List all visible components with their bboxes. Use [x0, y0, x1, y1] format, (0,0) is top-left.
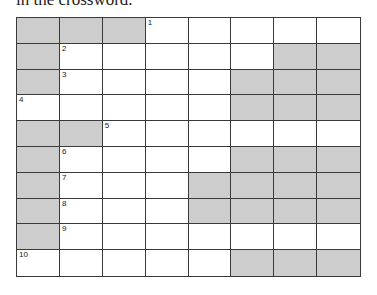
clue-number: 2 [62, 45, 66, 53]
blocked-cell [189, 173, 232, 199]
letter-cell[interactable] [103, 224, 146, 250]
clue-number: 9 [62, 225, 66, 233]
blocked-cell [231, 70, 274, 96]
blocked-cell [17, 224, 60, 250]
letter-cell[interactable] [189, 250, 232, 276]
letter-cell[interactable] [146, 199, 189, 225]
letter-cell[interactable] [146, 173, 189, 199]
letter-cell[interactable] [231, 224, 274, 250]
letter-cell[interactable]: 2 [60, 44, 103, 70]
letter-cell[interactable]: 5 [103, 121, 146, 147]
letter-cell[interactable] [274, 224, 317, 250]
clue-number: 5 [105, 122, 109, 130]
clue-number: 10 [19, 251, 28, 259]
blocked-cell [17, 199, 60, 225]
letter-cell[interactable]: 6 [60, 147, 103, 173]
instruction-text: in the crossword. [16, 0, 133, 8]
letter-cell[interactable]: 3 [60, 70, 103, 96]
blocked-cell [317, 70, 360, 96]
letter-cell[interactable] [189, 147, 232, 173]
letter-cell[interactable] [103, 44, 146, 70]
clue-number: 6 [62, 148, 66, 156]
blocked-cell [17, 121, 60, 147]
letter-cell[interactable] [103, 250, 146, 276]
letter-cell[interactable] [146, 70, 189, 96]
letter-cell[interactable] [189, 121, 232, 147]
letter-cell[interactable] [231, 44, 274, 70]
letter-cell[interactable] [189, 44, 232, 70]
letter-cell[interactable] [60, 95, 103, 121]
clue-number: 4 [19, 96, 23, 104]
clue-number: 8 [62, 200, 66, 208]
blocked-cell [274, 147, 317, 173]
letter-cell[interactable]: 1 [146, 18, 189, 44]
letter-cell[interactable] [146, 224, 189, 250]
letter-cell[interactable] [317, 121, 360, 147]
letter-cell[interactable] [146, 121, 189, 147]
blocked-cell [17, 70, 60, 96]
blocked-cell [274, 70, 317, 96]
letter-cell[interactable] [189, 95, 232, 121]
letter-cell[interactable] [317, 18, 360, 44]
letter-cell[interactable] [60, 250, 103, 276]
blocked-cell [17, 173, 60, 199]
clue-number: 7 [62, 174, 66, 182]
letter-cell[interactable]: 9 [60, 224, 103, 250]
clue-number: 3 [62, 71, 66, 79]
blocked-cell [274, 173, 317, 199]
blocked-cell [17, 44, 60, 70]
blocked-cell [17, 18, 60, 44]
blocked-cell [60, 18, 103, 44]
letter-cell[interactable] [189, 70, 232, 96]
letter-cell[interactable] [231, 121, 274, 147]
letter-cell[interactable] [189, 18, 232, 44]
letter-cell[interactable] [103, 173, 146, 199]
blocked-cell [317, 147, 360, 173]
letter-cell[interactable] [103, 199, 146, 225]
blocked-cell [274, 199, 317, 225]
clue-number: 1 [148, 19, 152, 27]
blocked-cell [274, 44, 317, 70]
blocked-cell [231, 173, 274, 199]
blocked-cell [317, 44, 360, 70]
blocked-cell [317, 199, 360, 225]
blocked-cell [231, 95, 274, 121]
letter-cell[interactable]: 10 [17, 250, 60, 276]
letter-cell[interactable] [274, 18, 317, 44]
blocked-cell [317, 95, 360, 121]
letter-cell[interactable]: 7 [60, 173, 103, 199]
blocked-cell [231, 250, 274, 276]
blocked-cell [60, 121, 103, 147]
letter-cell[interactable] [189, 224, 232, 250]
letter-cell[interactable] [146, 250, 189, 276]
blocked-cell [231, 147, 274, 173]
blocked-cell [189, 199, 232, 225]
blocked-cell [274, 250, 317, 276]
letter-cell[interactable] [274, 121, 317, 147]
letter-cell[interactable] [317, 224, 360, 250]
blocked-cell [317, 250, 360, 276]
letter-cell[interactable]: 4 [17, 95, 60, 121]
blocked-cell [17, 147, 60, 173]
letter-cell[interactable] [146, 147, 189, 173]
letter-cell[interactable] [103, 147, 146, 173]
letter-cell[interactable] [103, 70, 146, 96]
letter-cell[interactable] [146, 44, 189, 70]
blocked-cell [103, 18, 146, 44]
letter-cell[interactable] [103, 95, 146, 121]
letter-cell[interactable]: 8 [60, 199, 103, 225]
crossword-grid: 12345678910 [16, 17, 361, 277]
letter-cell[interactable] [146, 95, 189, 121]
letter-cell[interactable] [231, 18, 274, 44]
blocked-cell [231, 199, 274, 225]
blocked-cell [317, 173, 360, 199]
blocked-cell [274, 95, 317, 121]
